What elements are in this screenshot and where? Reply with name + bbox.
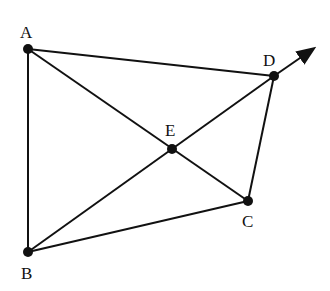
point-C [243,196,253,206]
segment-CD [248,76,274,201]
segment-BC [28,201,248,252]
point-A [23,44,33,54]
label-E: E [165,121,175,140]
geometry-diagram: ABCDE [0,0,330,291]
label-C: C [242,212,253,231]
point-B [23,247,33,257]
segment-AD [28,49,274,76]
label-A: A [20,23,33,42]
point-D [269,71,279,81]
point-E [167,144,177,154]
segment-AC [28,49,248,201]
diagram-canvas: ABCDE [0,0,330,291]
segment-BD [28,76,274,252]
label-B: B [21,264,32,283]
ray-arrow [274,49,313,76]
label-D: D [263,51,275,70]
